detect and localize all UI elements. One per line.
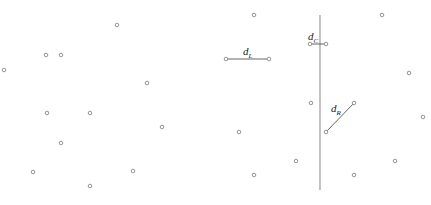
point: [2, 68, 6, 72]
pair-point: [324, 130, 328, 134]
distance-label: dR: [331, 102, 342, 117]
pair-dL: dL: [224, 45, 271, 61]
point: [237, 130, 241, 134]
point: [407, 71, 411, 75]
pair-point: [308, 42, 312, 46]
pair-point: [267, 57, 271, 61]
point-set: [2, 13, 425, 188]
point: [59, 53, 63, 57]
point: [294, 159, 298, 163]
point: [131, 169, 135, 173]
point: [309, 101, 313, 105]
point: [352, 173, 356, 177]
pair-point: [324, 42, 328, 46]
distance-label: dL: [243, 45, 253, 60]
pair-point: [352, 101, 356, 105]
point: [115, 23, 119, 27]
point: [393, 159, 397, 163]
point: [44, 53, 48, 57]
point: [252, 13, 256, 17]
point: [252, 173, 256, 177]
pair-dC: dC: [308, 30, 328, 46]
point: [160, 125, 164, 129]
closest-pairs: dLdCdR: [224, 30, 356, 134]
point: [59, 141, 63, 145]
point: [145, 81, 149, 85]
point: [380, 13, 384, 17]
point: [45, 111, 49, 115]
point: [421, 115, 425, 119]
point: [31, 170, 35, 174]
point: [88, 111, 92, 115]
pair-dR: dR: [324, 101, 356, 134]
pair-point: [224, 57, 228, 61]
point: [88, 184, 92, 188]
closest-pair-diagram: dLdCdR: [0, 0, 431, 205]
